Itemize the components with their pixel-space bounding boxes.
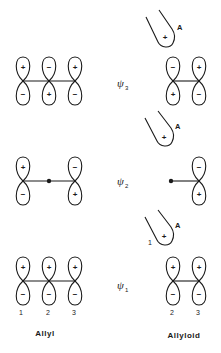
svg-text:ψ: ψ <box>117 175 124 187</box>
svg-text:−: − <box>47 290 52 299</box>
svg-text:+: + <box>197 63 202 72</box>
svg-text:−: − <box>21 190 26 199</box>
svg-text:−: − <box>171 63 176 72</box>
svg-text:+: + <box>21 263 26 272</box>
hybrid-orbital-A: + A <box>146 10 183 47</box>
allyl-psi2: + − − + <box>16 157 82 205</box>
node-dot <box>169 179 173 183</box>
svg-text:+: + <box>162 133 167 142</box>
level-psi1: + − + − + − 1 2 3 ψ 1 + A 1 <box>16 210 206 316</box>
svg-text:+: + <box>47 263 52 272</box>
allyl-psi1: + − + − + − 1 2 3 <box>16 257 82 316</box>
hybrid-orbital-A: + A 1 <box>145 210 181 246</box>
svg-text:2: 2 <box>125 183 129 189</box>
allyloid-psi2: − + <box>169 157 206 205</box>
svg-text:−: − <box>73 290 78 299</box>
sign-top: + <box>21 63 26 72</box>
allyl-label: Allyl <box>35 329 54 338</box>
orbital-diagram: + − − + + − ψ 3 + A <box>0 0 221 353</box>
svg-text:+: + <box>171 263 176 272</box>
svg-text:+: + <box>197 190 202 199</box>
svg-text:−: − <box>197 163 202 172</box>
svg-text:+: + <box>73 263 78 272</box>
atom-number-1: 1 <box>148 239 152 246</box>
svg-text:−: − <box>21 290 26 299</box>
sign-bottom: − <box>21 90 26 99</box>
atom-number-3: 3 <box>196 309 200 316</box>
allyloid-psi3: − + + − <box>166 57 206 105</box>
psi3-label: ψ 3 <box>117 77 129 91</box>
hybrid-orbital-A: + A <box>145 111 181 146</box>
svg-text:−: − <box>197 290 202 299</box>
svg-text:+: + <box>163 33 168 42</box>
sign-bottom: − <box>73 90 78 99</box>
level-psi2: + − − + ψ 2 + A − + <box>16 111 206 205</box>
svg-text:+: + <box>21 163 26 172</box>
node-dot <box>47 179 51 183</box>
atom-number-2: 2 <box>170 309 174 316</box>
sign-top: + <box>73 63 78 72</box>
svg-text:3: 3 <box>125 85 129 91</box>
sign-top: − <box>47 63 52 72</box>
svg-text:+: + <box>73 190 78 199</box>
svg-text:ψ: ψ <box>117 77 124 89</box>
sign-bottom: + <box>47 90 52 99</box>
allyloid-label: Allyloid <box>168 331 201 340</box>
atom-number-3: 3 <box>72 309 76 316</box>
svg-text:A: A <box>175 221 181 230</box>
svg-text:ψ: ψ <box>117 279 124 291</box>
svg-text:A: A <box>177 23 183 32</box>
level-psi3: + − − + + − ψ 3 + A <box>16 10 206 105</box>
svg-text:+: + <box>162 232 167 241</box>
psi1-label: ψ 1 <box>117 279 129 293</box>
allyloid-psi1: + − + − 2 3 <box>166 257 206 316</box>
svg-text:−: − <box>171 290 176 299</box>
svg-text:−: − <box>197 90 202 99</box>
psi2-label: ψ 2 <box>117 175 129 189</box>
svg-text:−: − <box>73 163 78 172</box>
svg-text:+: + <box>171 90 176 99</box>
svg-text:A: A <box>175 122 181 131</box>
atom-number-1: 1 <box>19 309 23 316</box>
svg-text:1: 1 <box>125 287 129 293</box>
atom-number-2: 2 <box>46 309 50 316</box>
svg-text:+: + <box>197 263 202 272</box>
allyl-psi3: + − − + + − <box>16 57 82 105</box>
